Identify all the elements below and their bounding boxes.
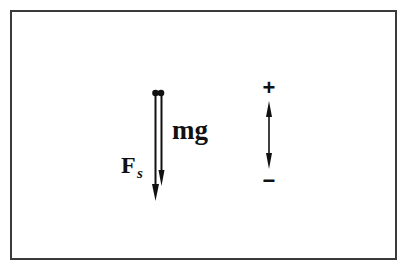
sign-convention-double-arrow-icon	[266, 101, 272, 169]
spring-force-arrow	[152, 94, 159, 201]
negative-sign-label: −	[259, 170, 279, 192]
weight-arrow	[159, 94, 165, 186]
positive-sign-label: +	[259, 77, 279, 99]
weight-label: mg	[172, 117, 208, 144]
spring-force-subscript: s	[137, 166, 143, 181]
spring-force-label: F	[121, 153, 136, 177]
